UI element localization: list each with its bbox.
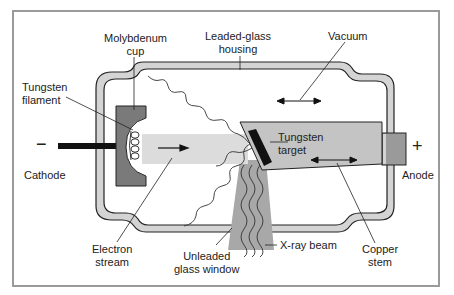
plus-symbol: +	[412, 136, 423, 157]
label-line: housing	[205, 43, 271, 56]
label-line: glass window	[174, 263, 239, 276]
label-line: Molybdenum	[104, 32, 167, 45]
label-line: Unleaded	[174, 250, 239, 263]
label-tungsten-filament: Tungsten filament	[22, 81, 67, 107]
label-tungsten-target: Tungsten target	[278, 131, 323, 157]
label-copper-stem: Copper stem	[362, 243, 398, 269]
label-vacuum: Vacuum	[328, 30, 368, 43]
minus-symbol: −	[36, 134, 47, 155]
label-line: stem	[362, 256, 398, 269]
label-line: cup	[104, 45, 167, 58]
label-line: Leaded-glass	[205, 30, 271, 43]
electron-stream	[142, 134, 248, 164]
label-line: Electron	[92, 243, 132, 256]
label-line: filament	[22, 94, 67, 107]
label-cathode: Cathode	[24, 169, 66, 182]
label-line: stream	[92, 256, 132, 269]
label-molybdenum-cup: Molybdenum cup	[104, 32, 167, 58]
label-xray-beam: X-ray beam	[280, 239, 337, 252]
label-line: Copper	[362, 243, 398, 256]
label-line: Tungsten	[278, 131, 323, 144]
label-electron-stream: Electron stream	[92, 243, 132, 269]
label-leaded-glass-housing: Leaded-glass housing	[205, 30, 271, 56]
label-unleaded-glass-window: Unleaded glass window	[174, 250, 239, 276]
cathode-lead	[58, 143, 120, 149]
label-anode: Anode	[402, 169, 434, 182]
label-line: Tungsten	[22, 81, 67, 94]
label-line: target	[278, 144, 323, 157]
